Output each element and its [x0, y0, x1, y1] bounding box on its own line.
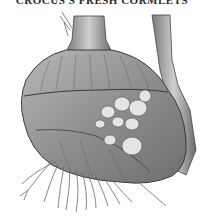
corm-neck	[66, 16, 112, 52]
corm-illustration	[0, 0, 204, 218]
